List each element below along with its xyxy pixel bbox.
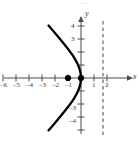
y-tick-label--4: –4 bbox=[69, 118, 76, 125]
x-tick-label--3: –3 bbox=[39, 82, 46, 89]
x-tick-label--1: –1 bbox=[65, 82, 72, 89]
y-tick-label-3: 3 bbox=[71, 36, 75, 43]
y-tick-label--3: –3 bbox=[69, 105, 76, 112]
top-crop-artifact: — bbox=[80, 0, 86, 6]
x-tick-label-1: 1 bbox=[92, 82, 96, 89]
y-axis-arrow-icon bbox=[78, 16, 84, 22]
x-tick-label--5: –5 bbox=[13, 82, 20, 89]
x-tick-label-2: 2 bbox=[105, 82, 109, 89]
x-tick-label--6: –6 bbox=[0, 82, 7, 89]
parabola-figure: — –6 –5 –4 –3 –2 –1 1 2 4 3 –3 –4 x y bbox=[0, 0, 140, 142]
x-tick-label--2: –2 bbox=[52, 82, 59, 89]
y-tick-label-4: 4 bbox=[71, 23, 75, 30]
x-axis-label: x bbox=[133, 73, 137, 81]
parabola-upper-branch bbox=[49, 26, 82, 79]
x-tick-label--4: –4 bbox=[26, 82, 33, 89]
y-axis-label: y bbox=[85, 10, 89, 18]
vertex-point bbox=[78, 75, 84, 81]
